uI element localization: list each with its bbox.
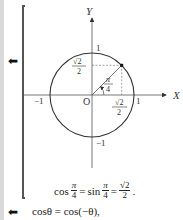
tick-y-pos: 1: [96, 43, 101, 53]
period: .: [132, 185, 135, 197]
cos-sin-formula: cos π 4 = sin π 4 = √2 2 .: [54, 181, 135, 200]
sqrt2-over-2-fraction: √2 2: [119, 181, 130, 200]
angle-den: 4: [106, 85, 110, 94]
tick-x-neg: −1: [34, 96, 44, 106]
origin-label: O: [83, 96, 90, 107]
tick-x-pos: 1: [136, 96, 141, 106]
tick-y-neg: −1: [96, 138, 106, 148]
point-marker: [120, 64, 123, 67]
x-axis-label: X: [172, 89, 181, 101]
y-value-den: 2: [77, 67, 81, 76]
sin-text: sin: [87, 185, 100, 197]
equals-sign: =: [111, 185, 117, 197]
pi-over-4-fraction: π 4: [102, 181, 109, 200]
cosine-even-identity: cosθ = cos(−θ),: [32, 205, 100, 217]
cos-text: cos: [54, 185, 69, 197]
angle-arc: [101, 87, 105, 96]
x-value-num: √2: [115, 98, 123, 107]
pi-over-4-fraction: π 4: [71, 181, 78, 200]
y-value-num: √2: [73, 57, 81, 66]
equals-sign: =: [79, 185, 85, 197]
y-axis-label: Y: [86, 5, 94, 17]
x-value-den: 2: [117, 108, 121, 117]
